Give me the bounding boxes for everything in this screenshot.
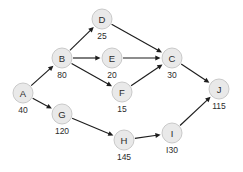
arrowhead-icon	[155, 133, 161, 138]
edge-line	[72, 118, 110, 134]
node-value: 80	[57, 70, 67, 80]
node-value: 145	[117, 152, 131, 162]
edge-g-to-h	[72, 118, 113, 136]
edge-c-to-j	[181, 64, 209, 83]
node-h[interactable]: H145	[114, 130, 134, 162]
node-value: 30	[167, 70, 177, 80]
node-label: J	[217, 84, 222, 95]
edge-b-to-f	[72, 63, 112, 86]
edge-line	[180, 100, 208, 126]
node-b[interactable]: B80	[52, 48, 72, 80]
node-c[interactable]: C30	[162, 48, 182, 80]
edge-d-to-c	[112, 24, 162, 52]
node-f[interactable]: F15	[112, 82, 132, 114]
edge-line	[31, 68, 50, 85]
node-g[interactable]: G120	[52, 104, 72, 136]
node-value: 20	[107, 70, 117, 80]
node-label: D	[99, 14, 106, 25]
edge-line	[112, 24, 159, 50]
edge-f-to-c	[131, 64, 162, 85]
node-label: A	[20, 88, 27, 99]
graph-canvas: A40B80D25E20F15C30G120H145II30J115	[0, 0, 243, 172]
node-label: B	[59, 53, 65, 64]
node-d[interactable]: D25	[92, 9, 112, 41]
node-label: I	[171, 128, 174, 139]
edge-b-to-e	[73, 56, 101, 61]
edge-line	[135, 135, 157, 138]
edge-line	[131, 67, 159, 86]
edge-e-to-c	[123, 56, 161, 61]
edge-i-to-j	[180, 97, 211, 126]
edge-a-to-b	[31, 66, 53, 86]
node-j[interactable]: J115	[209, 79, 229, 111]
node-label: E	[109, 53, 115, 64]
node-label: F	[119, 87, 125, 98]
activity-network-diagram: A40B80D25E20F15C30G120H145II30J115	[0, 0, 243, 172]
arrowhead-icon	[204, 78, 210, 83]
edge-line	[181, 64, 206, 80]
edge-line	[70, 30, 91, 51]
node-value: 40	[18, 105, 28, 115]
node-value: 115	[212, 101, 226, 111]
node-label: G	[58, 109, 65, 120]
node-value: 25	[97, 31, 107, 41]
node-label: C	[169, 53, 176, 64]
node-value: 120	[55, 126, 69, 136]
edge-b-to-d	[70, 27, 94, 50]
arrowhead-icon	[95, 56, 100, 61]
node-value: 15	[117, 104, 127, 114]
edge-a-to-g	[33, 98, 52, 108]
node-label: H	[121, 135, 128, 146]
node-a[interactable]: A40	[13, 83, 33, 115]
edge-h-to-i	[135, 133, 161, 138]
node-value: I30	[166, 145, 178, 155]
node-e[interactable]: E20	[102, 48, 122, 80]
edge-line	[33, 98, 49, 106]
edge-line	[72, 63, 109, 84]
arrowhead-icon	[155, 56, 160, 61]
arrowhead-icon	[157, 64, 163, 69]
nodes-layer: A40B80D25E20F15C30G120H145II30J115	[13, 9, 229, 162]
node-i[interactable]: II30	[162, 123, 182, 155]
